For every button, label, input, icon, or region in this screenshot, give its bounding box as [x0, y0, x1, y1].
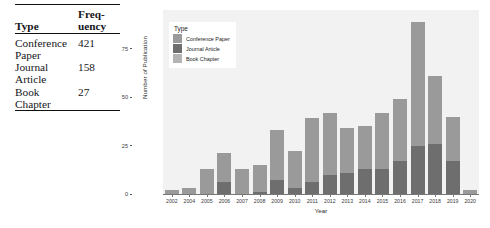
x-axis-tick-mark: [207, 194, 208, 197]
x-axis-tick-mark: [330, 194, 331, 197]
bar-segment-journal-article: [340, 173, 354, 194]
legend-item-label: Conference Paper: [186, 36, 230, 42]
legend-swatch-icon: [173, 44, 182, 53]
frequency-table: Freq- Type uency Conference 421 Paper Jo…: [15, 4, 120, 114]
x-axis-tick-label-2014: 2014: [359, 198, 371, 204]
x-axis-tick-mark: [312, 194, 313, 197]
bar-segment-conference-paper: [288, 151, 302, 188]
x-axis-tick-label-2002: 2002: [166, 198, 178, 204]
y-axis-tick-mark: [130, 97, 133, 98]
bar-segment-conference-paper: [358, 126, 372, 169]
x-axis-tick-mark: [453, 194, 454, 197]
bar-2011[interactable]: [305, 118, 319, 194]
bar-segment-journal-article: [217, 182, 231, 194]
x-axis-tick-mark: [224, 194, 225, 197]
x-axis-tick-mark: [470, 194, 471, 197]
legend-item[interactable]: Book Chapter: [173, 54, 230, 63]
bar-2008[interactable]: [253, 165, 267, 194]
cell-type: Book: [15, 86, 78, 98]
header-frequency-line1: Freq-: [78, 8, 120, 20]
table-row-cont: Chapter: [15, 98, 120, 111]
publication-bar-chart: Number of Publication 0255075 2002200420…: [128, 2, 486, 226]
legend-items: Conference PaperJournal ArticleBook Chap…: [173, 34, 230, 63]
bar-segment-journal-article: [270, 180, 284, 194]
bar-2018[interactable]: [428, 76, 442, 194]
x-axis-tick-label-2007: 2007: [236, 198, 248, 204]
bar-2015[interactable]: [375, 113, 389, 194]
bar-2006[interactable]: [217, 153, 231, 194]
bar-segment-conference-paper: [235, 169, 249, 194]
x-axis-tick-label-2017: 2017: [412, 198, 424, 204]
bar-segment-conference-paper: [270, 130, 284, 180]
bar-2019[interactable]: [446, 117, 460, 194]
x-axis-tick-label-2013: 2013: [342, 198, 354, 204]
legend-swatch-icon: [173, 34, 182, 43]
bar-segment-conference-paper: [305, 118, 319, 182]
cell-type-cont: Article: [15, 73, 78, 85]
cell-type: Conference: [15, 37, 78, 49]
x-axis-tick-mark: [172, 194, 173, 197]
bar-2016[interactable]: [393, 99, 407, 194]
bar-segment-journal-article: [393, 161, 407, 194]
bar-2010[interactable]: [288, 151, 302, 194]
bar-segment-journal-article: [375, 169, 389, 194]
cell-type: Journal: [15, 61, 78, 73]
x-axis-tick-label-2005: 2005: [201, 198, 213, 204]
cell-frequency: 27: [78, 86, 120, 98]
x-axis-line: [163, 194, 479, 195]
bar-segment-conference-paper: [428, 76, 442, 144]
bar-2017[interactable]: [411, 22, 425, 194]
bar-segment-journal-article: [428, 144, 442, 194]
x-axis-tick-label-2010: 2010: [289, 198, 301, 204]
bar-2005[interactable]: [200, 169, 214, 194]
bar-segment-conference-paper: [393, 99, 407, 161]
x-axis-tick-label-2020: 2020: [464, 198, 476, 204]
bar-segment-conference-paper: [340, 128, 354, 173]
header-type: Type: [15, 20, 78, 33]
x-axis-tick-mark: [382, 194, 383, 197]
x-axis-tick-mark: [277, 194, 278, 197]
bar-segment-conference-paper: [375, 113, 389, 169]
bar-2009[interactable]: [270, 130, 284, 194]
bar-segment-journal-article: [446, 161, 460, 194]
cell-frequency: 421: [78, 37, 120, 49]
legend-title: Type: [174, 25, 230, 32]
x-axis-tick-label-2009: 2009: [271, 198, 283, 204]
cell-type-cont: Paper: [15, 49, 78, 61]
x-axis-tick-mark: [400, 194, 401, 197]
table-row: Conference 421: [15, 37, 120, 49]
x-axis-tick-label-2015: 2015: [377, 198, 389, 204]
table-row: Book 27: [15, 86, 120, 98]
y-axis-tick-mark: [130, 48, 133, 49]
y-axis-tick-label: 25: [122, 143, 128, 149]
x-axis-tick-mark: [347, 194, 348, 197]
header-frequency-line2: uency: [78, 20, 120, 33]
y-axis-tick-mark: [130, 145, 133, 146]
bar-2012[interactable]: [323, 113, 337, 194]
table-header-row-1: Freq-: [15, 8, 120, 20]
legend-item[interactable]: Conference Paper: [173, 34, 230, 43]
bar-2014[interactable]: [358, 126, 372, 194]
bar-segment-conference-paper: [446, 117, 460, 162]
x-axis-tick-label-2016: 2016: [394, 198, 406, 204]
y-axis-tick-label: 75: [122, 46, 128, 52]
bar-2013[interactable]: [340, 128, 354, 194]
bar-segment-conference-paper: [217, 153, 231, 182]
x-axis-label: Year: [163, 207, 479, 214]
legend-item[interactable]: Journal Article: [173, 44, 230, 53]
x-axis-tick-label-2019: 2019: [447, 198, 459, 204]
bar-2007[interactable]: [235, 169, 249, 194]
y-axis-tick-mark: [130, 194, 133, 195]
table-header-row-2: Type uency: [15, 20, 120, 33]
y-axis-tick-label: 0: [125, 191, 128, 197]
bar-segment-conference-paper: [323, 113, 337, 175]
x-axis-tick-mark: [295, 194, 296, 197]
bar-segment-conference-paper: [253, 165, 267, 192]
x-axis-tick-label-2004: 2004: [184, 198, 196, 204]
x-axis-tick-mark: [260, 194, 261, 197]
x-axis-tick-label-2006: 2006: [219, 198, 231, 204]
y-axis-label: Number of Publication: [141, 18, 148, 118]
table-row: Journal 158: [15, 61, 120, 73]
x-axis-tick-label-2011: 2011: [307, 198, 318, 204]
screenshot-root: Freq- Type uency Conference 421 Paper Jo…: [0, 0, 490, 228]
